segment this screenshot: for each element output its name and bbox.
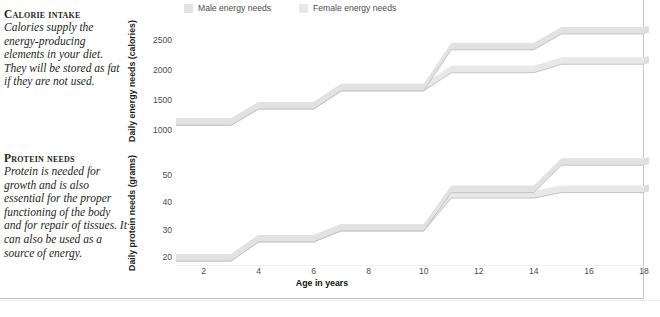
legend-label-female: Female energy needs [313, 3, 396, 13]
legend-swatch-male-icon [184, 4, 193, 13]
y-axis-title-protein: Daily protein needs (grams) [127, 148, 139, 278]
figure-border-bottom [0, 298, 644, 299]
y-tick-label: 40 [142, 198, 172, 207]
blurb-heading-calorie-intake: Calorie intake [4, 8, 128, 21]
blurb-calorie-intake: Calorie intake Calories supply the energ… [4, 8, 128, 89]
series-end-cap [644, 157, 649, 165]
x-tick-label: 10 [419, 266, 429, 276]
legend-item-male: Male energy needs [184, 3, 271, 13]
x-axis-ticks: 24681012141618 [176, 266, 644, 278]
series-end-cap [644, 56, 649, 64]
y-axis-title-energy: Daily energy needs (calories) [127, 16, 139, 146]
figure-border-bottom-shadow [0, 300, 660, 301]
y-tick-label: 1500 [142, 96, 172, 105]
x-tick-label: 8 [366, 266, 371, 276]
series-ribbon [176, 158, 644, 261]
plot-energy [176, 16, 644, 146]
charts-area: Male energy needs Female energy needs Da… [128, 0, 644, 298]
legend-swatch-female-icon [299, 4, 308, 13]
blurb-heading-protein-needs: Protein needs [4, 152, 128, 165]
explanatory-text-column: Calorie intake Calories supply the energ… [4, 4, 128, 296]
series-canvas [176, 148, 650, 274]
y-tick-label: 50 [142, 171, 172, 180]
series-end-cap [644, 26, 649, 34]
x-tick-label: 12 [474, 266, 484, 276]
series-canvas [176, 16, 650, 146]
x-tick-label: 16 [584, 266, 594, 276]
y-tick-label: 20 [142, 253, 172, 262]
x-tick-label: 2 [201, 266, 206, 276]
chart-legend: Male energy needs Female energy needs [184, 1, 396, 15]
x-tick-label: 4 [256, 266, 261, 276]
blurb-body-protein-needs: Protein is needed for growth and is also… [4, 165, 128, 260]
blurb-protein-needs: Protein needs Protein is needed for grow… [4, 152, 128, 260]
y-tick-label: 1000 [142, 126, 172, 135]
x-tick-label: 14 [529, 266, 539, 276]
y-tick-label: 2000 [142, 66, 172, 75]
y-tick-label: 30 [142, 226, 172, 235]
y-axis-ticks-energy: 1000150020002500 [142, 16, 172, 146]
chart-panel-protein: Daily protein needs (grams) 20304050 [128, 148, 644, 274]
infographic-figure: Calorie intake Calories supply the energ… [0, 0, 660, 317]
legend-item-female: Female energy needs [299, 3, 396, 13]
legend-label-male: Male energy needs [198, 3, 271, 13]
y-axis-ticks-protein: 20304050 [142, 148, 172, 274]
x-tick-label: 18 [639, 266, 649, 276]
x-axis-title: Age in years [0, 278, 644, 288]
series-end-cap [644, 185, 649, 193]
blurb-body-calorie-intake: Calories supply the energy-producing ele… [4, 21, 128, 89]
series-ribbon [176, 27, 644, 125]
chart-panel-energy: Daily energy needs (calories) 1000150020… [128, 16, 644, 146]
x-tick-label: 6 [311, 266, 316, 276]
y-tick-label: 2500 [142, 36, 172, 45]
plot-protein [176, 148, 644, 274]
